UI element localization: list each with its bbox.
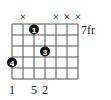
fret-position-label: 7fr bbox=[81, 23, 95, 37]
finger-dot: 4 bbox=[7, 58, 17, 68]
finger-number: 1 bbox=[32, 26, 37, 35]
finger-dot: 3 bbox=[40, 47, 50, 57]
mute-x-icon: × bbox=[64, 10, 71, 24]
bottom-finger-label: 5 bbox=[31, 83, 37, 97]
mute-x-icon: × bbox=[75, 10, 82, 24]
finger-number: 4 bbox=[10, 59, 15, 68]
muted-strings: ×××× bbox=[20, 10, 82, 24]
finger-number: 3 bbox=[43, 48, 48, 57]
bottom-finger-label: 1 bbox=[9, 83, 15, 97]
mute-x-icon: × bbox=[20, 10, 27, 24]
chord-diagram: ×××× 134 152 7fr bbox=[0, 0, 111, 100]
finger-dot: 1 bbox=[29, 25, 39, 35]
bottom-finger-label: 2 bbox=[42, 83, 48, 97]
bottom-labels: 152 bbox=[9, 83, 48, 97]
mute-x-icon: × bbox=[53, 10, 60, 24]
